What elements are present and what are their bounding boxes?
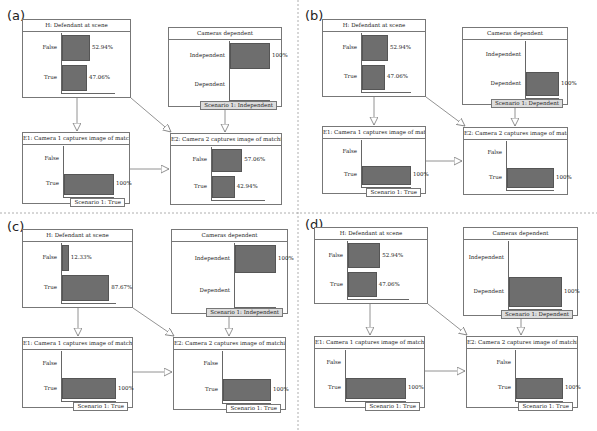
- state-row-independent: Independent: [464, 241, 577, 275]
- state-label: False: [342, 44, 357, 50]
- state-label: Independent: [486, 51, 521, 57]
- node-c-a[interactable]: Cameras dependentIndependent100%Dependen…: [168, 27, 282, 107]
- state-label: Independent: [195, 255, 230, 261]
- state-label: False: [42, 360, 57, 366]
- probability-bar: [362, 65, 385, 91]
- node-e1-b[interactable]: E1: Camera 1 captures image of matchingF…: [322, 126, 426, 194]
- node-title: E2: Camera 2 captures image of matching: [174, 338, 285, 350]
- state-row-true: True42.94%: [171, 174, 281, 201]
- state-label: True: [489, 174, 502, 180]
- state-row-dependent: Dependent: [169, 71, 281, 101]
- state-row-false: False12.33%: [23, 243, 132, 273]
- scenario-tag: Scenario 1: Independent: [200, 101, 277, 110]
- node-h-d[interactable]: H: Defendant at sceneFalse52.94%True47.0…: [314, 227, 428, 304]
- state-label: Independent: [190, 52, 225, 58]
- state-label: Dependent: [199, 287, 230, 293]
- state-label: False: [342, 148, 357, 154]
- probability-bar: [230, 43, 270, 69]
- state-label: Dependent: [194, 81, 225, 87]
- state-row-true: True100%: [467, 376, 577, 402]
- state-label: Dependent: [490, 80, 521, 86]
- node-title: E1: Camera 1 captures image of matching: [315, 337, 424, 349]
- probability-value: 12.33%: [71, 254, 92, 260]
- state-label: True: [44, 74, 57, 80]
- state-row-false: False: [323, 140, 425, 164]
- state-label: True: [44, 385, 57, 391]
- node-title: Cameras dependent: [463, 28, 567, 40]
- node-h-b[interactable]: H: Defendant at sceneFalse52.94%True47.0…: [322, 19, 426, 97]
- scenario-tag: Scenario 1: True: [365, 402, 420, 411]
- probability-bar: [362, 35, 388, 61]
- probability-value: 47.06%: [379, 281, 400, 287]
- scenario-tag: Scenario 1: True: [518, 402, 573, 411]
- probability-bar: [362, 166, 411, 186]
- node-title: Cameras dependent: [169, 28, 281, 40]
- state-label: True: [344, 73, 357, 79]
- node-e2-d[interactable]: E2: Camera 2 captures image of matchingF…: [466, 336, 578, 408]
- node-e2-c[interactable]: E2: Camera 2 captures image of matchingF…: [173, 337, 286, 410]
- probability-value: 57.06%: [244, 156, 265, 162]
- probability-value: 100%: [408, 384, 424, 390]
- state-label: True: [194, 183, 207, 189]
- scenario-tag: Scenario 1: True: [70, 198, 125, 207]
- scenario-tag: Scenario 1: Dependent: [501, 310, 573, 319]
- state-row-independent: Independent: [463, 41, 567, 70]
- probability-value: 100%: [278, 255, 294, 261]
- node-title: E1: Camera 1 captures image of matching: [23, 338, 132, 350]
- node-title: E2: Camera 2 captures image of matching: [467, 337, 577, 349]
- state-row-false: False: [174, 351, 285, 377]
- state-label: False: [44, 155, 59, 161]
- scenario-tag: Scenario 1: True: [366, 188, 421, 197]
- state-row-true: True100%: [323, 164, 425, 188]
- node-e1-d[interactable]: E1: Camera 1 captures image of matchingF…: [314, 336, 425, 408]
- node-title: H: Defendant at scene: [23, 20, 130, 32]
- state-label: False: [42, 254, 57, 260]
- probability-bar: [212, 149, 242, 172]
- state-row-true: True100%: [23, 376, 132, 401]
- probability-bar: [64, 174, 114, 196]
- state-row-independent: Independent100%: [172, 243, 287, 275]
- state-label: False: [203, 360, 218, 366]
- probability-value: 100%: [556, 174, 572, 180]
- probability-value: 52.94%: [92, 44, 113, 50]
- node-c-d[interactable]: Cameras dependentIndependentDependent100…: [463, 227, 578, 316]
- scenario-tag: Scenario 1: Dependent: [491, 99, 563, 108]
- probability-value: 100%: [273, 386, 289, 392]
- state-row-false: False: [23, 146, 129, 172]
- probability-value: 47.06%: [89, 74, 110, 80]
- state-label: True: [328, 384, 341, 390]
- node-e2-a[interactable]: E2: Camera 2 captures image of matchingF…: [170, 133, 282, 205]
- state-row-true: True47.06%: [323, 63, 425, 93]
- node-title: H: Defendant at scene: [323, 20, 425, 32]
- state-label: True: [44, 284, 57, 290]
- probability-bar: [348, 243, 380, 268]
- state-label: False: [328, 252, 343, 258]
- probability-bar: [62, 35, 90, 61]
- node-h-c[interactable]: H: Defendant at sceneFalse12.33%True87.6…: [22, 229, 133, 308]
- state-row-true: True100%: [315, 376, 424, 402]
- state-label: False: [496, 359, 511, 365]
- state-row-false: False: [467, 350, 577, 376]
- state-label: Dependent: [473, 288, 504, 294]
- state-row-independent: Independent100%: [169, 41, 281, 71]
- probability-bar: [62, 378, 116, 399]
- state-row-dependent: Dependent: [172, 275, 287, 307]
- node-e1-a[interactable]: E1: Camera 1 captures image of matchingF…: [22, 132, 130, 204]
- state-row-true: True87.67%: [23, 273, 132, 303]
- node-c-c[interactable]: Cameras dependentIndependent100%Dependen…: [171, 229, 288, 314]
- probability-bar: [507, 168, 554, 189]
- state-label: True: [498, 384, 511, 390]
- node-e2-b[interactable]: E2: Camera 2 captures image of matchingF…: [463, 127, 568, 195]
- probability-value: 100%: [413, 171, 429, 177]
- state-row-dependent: Dependent100%: [463, 70, 567, 99]
- node-e1-c[interactable]: E1: Camera 1 captures image of matchingF…: [22, 337, 133, 408]
- probability-bar: [516, 378, 563, 400]
- state-label: False: [487, 149, 502, 155]
- state-row-false: False52.94%: [315, 241, 427, 270]
- node-c-b[interactable]: Cameras dependentIndependentDependent100…: [462, 27, 568, 105]
- scenario-tag: Scenario 1: True: [73, 402, 128, 411]
- state-row-true: True100%: [23, 172, 129, 198]
- node-h-a[interactable]: H: Defendant at sceneFalse52.94%True47.0…: [22, 19, 131, 98]
- node-title: E2: Camera 2 captures image of matching: [464, 128, 567, 140]
- state-label: Independent: [469, 254, 504, 260]
